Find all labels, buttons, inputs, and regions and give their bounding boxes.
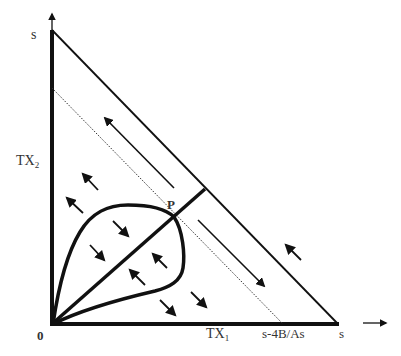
y-axis-label: TX2: [16, 153, 39, 170]
phase-diagram: s TX2 0 TX1 s-4B/As s P: [0, 0, 401, 356]
y-axis-label-main: TX: [16, 153, 35, 168]
small-arrow-1: [83, 174, 98, 190]
x-intercept-label: s-4B/As: [262, 326, 305, 341]
small-arrow-6: [130, 270, 145, 285]
long-arrow-down-right: [198, 220, 264, 286]
y-axis-label-sub: 2: [35, 160, 40, 170]
x-axis-label: TX1: [206, 326, 229, 343]
x-axis-label-main: TX: [206, 326, 225, 341]
small-arrow-3: [113, 221, 128, 236]
x-axis-label-sub: 1: [225, 333, 230, 343]
y-max-label: s: [31, 27, 36, 42]
x-max-label: s: [339, 326, 344, 341]
boundary-line: [52, 30, 338, 324]
small-arrow-2: [67, 198, 83, 213]
point-p-label: P: [167, 197, 175, 212]
small-arrow-7: [160, 300, 175, 315]
small-arrow-4: [90, 245, 104, 260]
origin-label: 0: [37, 328, 44, 343]
small-arrow-8: [191, 292, 206, 307]
small-arrow-5: [153, 254, 167, 268]
small-arrow-9: [286, 245, 301, 260]
